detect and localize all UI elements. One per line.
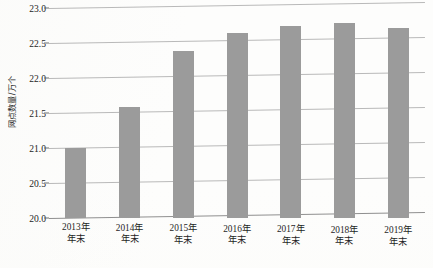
x-axis-tick-label-line2: 年末	[261, 236, 321, 248]
x-axis-tick-label: 2018年年末	[314, 225, 374, 248]
y-axis-tick-label: 22.5	[10, 38, 46, 49]
x-axis-tick-label: 2013年年末	[46, 222, 106, 245]
plot-area	[49, 8, 425, 218]
x-axis-tick-label: 2016年年末	[207, 224, 267, 247]
y-axis-tickmark	[44, 113, 49, 114]
y-axis-tickmark	[44, 8, 49, 9]
x-axis-tick-label-line1: 2014年	[116, 223, 144, 233]
bar	[119, 107, 140, 218]
x-axis-tick-label-line1: 2016年	[223, 224, 251, 234]
y-axis-tickmark	[44, 218, 49, 219]
x-axis-tick-label-line1: 2018年	[331, 225, 359, 235]
gridline	[49, 2, 425, 9]
x-axis-tick-label-line1: 2019年	[384, 225, 412, 235]
y-axis-tickmark	[44, 183, 49, 184]
bar	[280, 26, 301, 218]
x-axis-tick-label-line2: 年末	[100, 234, 160, 246]
bar	[173, 51, 194, 218]
y-axis-tick-label: 22.0	[10, 73, 46, 84]
x-axis-tick-label: 2017年年末	[261, 224, 321, 247]
bar-chart: 网点数量/万个 20.020.521.021.522.022.523.0 201…	[0, 0, 433, 268]
x-axis-tick-label: 2019年年末	[368, 225, 428, 248]
y-axis-tickmark	[44, 148, 49, 149]
y-axis-tick-label: 21.5	[10, 108, 46, 119]
y-axis-tick-label: 20.0	[10, 213, 46, 224]
y-axis-tickmark	[44, 43, 49, 44]
x-axis-tick-label-line2: 年末	[314, 236, 374, 248]
y-axis-tickmark	[44, 78, 49, 79]
x-axis-tick-label-line1: 2017年	[277, 224, 305, 234]
y-axis-tick-label: 23.0	[10, 3, 46, 14]
bar	[334, 23, 355, 218]
x-axis-tick-label-line2: 年末	[46, 234, 106, 246]
x-axis-tick-label: 2015年年末	[153, 223, 213, 246]
bar	[65, 148, 86, 218]
y-axis-tick-label: 21.0	[10, 143, 46, 154]
bar	[388, 28, 409, 218]
x-axis-tick-label-line2: 年末	[207, 235, 267, 247]
y-axis-tick-labels: 20.020.521.021.522.022.523.0	[0, 0, 46, 268]
x-axis-tick-label-line1: 2013年	[62, 222, 90, 232]
x-axis-tick-labels: 2013年年末2014年年末2015年年末2016年年末2017年年末2018年…	[49, 222, 425, 264]
y-axis-tick-label: 20.5	[10, 178, 46, 189]
x-axis-tick-label-line2: 年末	[368, 237, 428, 249]
x-axis-tick-label-line1: 2015年	[169, 223, 197, 233]
x-axis-tick-label: 2014年年末	[100, 223, 160, 246]
x-axis-tick-label-line2: 年末	[153, 235, 213, 247]
bar	[227, 33, 248, 219]
